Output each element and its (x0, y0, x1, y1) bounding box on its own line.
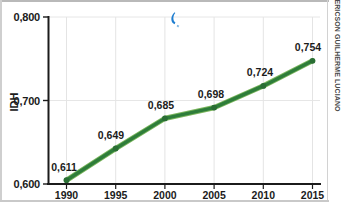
data-point-2005 (211, 105, 217, 111)
data-point-1995 (113, 146, 119, 152)
y-axis-title: IDH (8, 92, 20, 111)
line-chart-plot: 0,800 0,700 0,600 1990 1995 2000 2005 20… (0, 0, 347, 202)
credit-text: ERICSON GUILHERME LUCIANO (334, 0, 341, 112)
credit-watermark: ERICSON GUILHERME LUCIANO (328, 0, 346, 202)
data-label-1990: 0,611 (51, 161, 77, 173)
data-label-1995: 0,649 (98, 129, 124, 141)
data-label-2005: 0,698 (198, 88, 224, 100)
chart-figure: 0,800 0,700 0,600 1990 1995 2000 2005 20… (0, 0, 347, 202)
data-label-2010: 0,724 (247, 66, 273, 78)
xtick-label-2010: 2010 (252, 189, 276, 201)
data-point-2000 (162, 116, 168, 122)
xtick-label-2015: 2015 (301, 189, 325, 201)
xtick-label-2000: 2000 (153, 189, 177, 201)
blue-cursor-mark-icon (166, 11, 182, 29)
data-label-2000: 0,685 (148, 99, 174, 111)
ytick-label-0600: 0,600 (13, 178, 40, 190)
xtick-label-1990: 1990 (55, 189, 79, 201)
xtick-label-2005: 2005 (202, 189, 226, 201)
data-point-1990 (64, 177, 70, 183)
data-point-2010 (260, 83, 266, 89)
data-label-2015: 0,754 (295, 41, 321, 53)
xtick-label-1995: 1995 (104, 189, 128, 201)
ytick-label-0800: 0,800 (13, 11, 40, 23)
data-point-2015 (310, 58, 316, 64)
